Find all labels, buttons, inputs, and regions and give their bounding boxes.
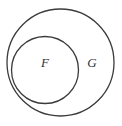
set-label-f: F bbox=[40, 55, 50, 70]
venn-diagram-canvas: F G bbox=[0, 0, 122, 126]
set-circle-inner-f bbox=[12, 37, 79, 104]
venn-diagram-container: F G bbox=[0, 0, 122, 126]
set-label-g: G bbox=[87, 55, 97, 70]
